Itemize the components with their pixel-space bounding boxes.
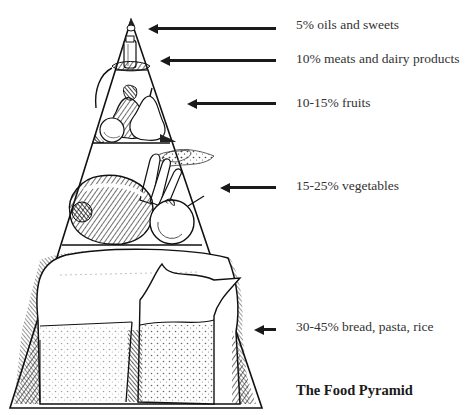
food-pyramid-figure: 5% oils and sweets 10% meats and dairy p… [0, 0, 466, 415]
label-meats-dairy: 10% meats and dairy products [296, 52, 459, 66]
bread-rice-bag-icon [14, 249, 256, 404]
arrow-fruits [195, 102, 276, 105]
label-grains: 30-45% bread, pasta, rice [296, 320, 434, 334]
oil-bottle-icon [127, 18, 135, 31]
figure-title: The Food Pyramid [296, 382, 413, 399]
label-fruits: 10-15% fruits [296, 96, 371, 110]
label-vegetables: 15-25% vegetables [296, 179, 399, 193]
arrow-vegetables [228, 186, 276, 189]
label-oils-sweets: 5% oils and sweets [296, 18, 399, 32]
arrow-meats-dairy [168, 59, 276, 62]
pepper-carrots-icon [69, 150, 214, 245]
pyramid-drawing [0, 0, 275, 415]
arrow-oils-sweets [156, 27, 276, 30]
pears-apple-icon [95, 85, 176, 142]
arrow-grains [262, 328, 276, 331]
